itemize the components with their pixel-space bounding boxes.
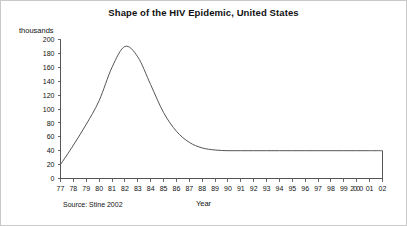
x-axis-tick-label: 86 (173, 185, 181, 192)
x-axis-tick-label: 02 (379, 185, 387, 192)
x-axis-tick-label: 81 (108, 185, 116, 192)
x-axis-tick-label: 97 (314, 185, 322, 192)
y-axis-tick-label: 100 (43, 106, 55, 113)
x-axis-tick-label: 90 (224, 185, 232, 192)
source-note: Source: Stine 2002 (63, 201, 123, 208)
y-axis-tick-labels: 020406080100120140160180200 (43, 36, 55, 182)
plot-area: 020406080100120140160180200 777879808182… (1, 1, 407, 226)
y-axis-tick-label: 0 (51, 175, 55, 182)
x-axis-tick-label: 78 (69, 185, 77, 192)
x-axis-tick-label: 85 (160, 185, 168, 192)
x-axis-tick-label: 95 (288, 185, 296, 192)
x-axis-tick-label: 87 (185, 185, 193, 192)
y-axis-tick-label: 20 (47, 161, 55, 168)
x-axis-tick-label: 79 (82, 185, 90, 192)
x-axis-tick-label: 01 (366, 185, 374, 192)
data-series-line (61, 46, 383, 178)
x-axis-title: Year (1, 199, 406, 208)
y-axis-tick-label: 160 (43, 64, 55, 71)
x-axis-tick-label: 91 (237, 185, 245, 192)
x-axis-tick-label: 99 (340, 185, 348, 192)
chart-figure: Shape of the HIV Epidemic, United States… (0, 0, 407, 226)
y-axis-tick-label: 200 (43, 36, 55, 43)
y-axis-tick-label: 120 (43, 92, 55, 99)
x-axis-tick-label: 88 (198, 185, 206, 192)
x-axis-tick-marks (61, 179, 383, 183)
x-axis-tick-label: 89 (211, 185, 219, 192)
y-axis-tick-label: 180 (43, 50, 55, 57)
x-axis-tick-label: 94 (276, 185, 284, 192)
x-axis-tick-label: 82 (121, 185, 129, 192)
y-axis-tick-label: 80 (47, 120, 55, 127)
x-axis-tick-label: 93 (263, 185, 271, 192)
x-axis-tick-label: 84 (147, 185, 155, 192)
x-axis-tick-label: 2000 (350, 185, 363, 192)
y-axis-tick-label: 40 (47, 147, 55, 154)
x-axis-tick-label: 77 (57, 185, 65, 192)
x-axis-tick-label: 83 (134, 185, 142, 192)
y-axis-tick-label: 140 (43, 78, 55, 85)
x-axis-tick-label: 92 (250, 185, 258, 192)
x-axis-tick-label: 98 (327, 185, 335, 192)
x-axis-tick-labels: 7778798081828384858687888990919293949596… (57, 185, 387, 192)
y-axis-tick-label: 60 (47, 133, 55, 140)
x-axis-tick-label: 96 (301, 185, 309, 192)
x-axis-tick-label: 80 (95, 185, 103, 192)
